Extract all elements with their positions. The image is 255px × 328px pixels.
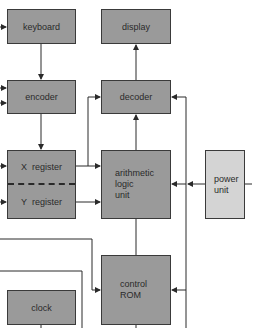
control-rom-label-line-2: ROM bbox=[120, 290, 170, 301]
power-unit-label-line-1: power bbox=[214, 174, 244, 185]
x-register: X register bbox=[8, 151, 75, 183]
y-register: Y register bbox=[8, 185, 75, 218]
control-rom-label-line-1: control bbox=[120, 279, 170, 290]
x-register-label: X register bbox=[21, 162, 62, 172]
control-rom-block: control ROM bbox=[101, 255, 171, 325]
alu-label-line-3: unit bbox=[115, 190, 170, 201]
register-block: X register Y register bbox=[7, 150, 76, 219]
encoder-label: encoder bbox=[25, 92, 58, 102]
encoder-block: encoder bbox=[7, 80, 76, 114]
display-block: display bbox=[101, 9, 171, 44]
decoder-label: decoder bbox=[120, 92, 153, 102]
y-register-label: Y register bbox=[21, 197, 62, 207]
alu-label-line-1: arithmetic bbox=[115, 168, 170, 179]
power-unit-block: power unit bbox=[205, 150, 245, 219]
clock-block: clock bbox=[7, 290, 76, 325]
keyboard-label: keyboard bbox=[23, 22, 60, 32]
decoder-block: decoder bbox=[101, 80, 171, 114]
alu-block: arithmetic logic unit bbox=[101, 150, 171, 219]
power-unit-label-line-2: unit bbox=[214, 185, 244, 196]
display-label: display bbox=[122, 22, 150, 32]
clock-label: clock bbox=[31, 303, 52, 313]
alu-label-line-2: logic bbox=[115, 179, 170, 190]
keyboard-block: keyboard bbox=[7, 9, 76, 44]
